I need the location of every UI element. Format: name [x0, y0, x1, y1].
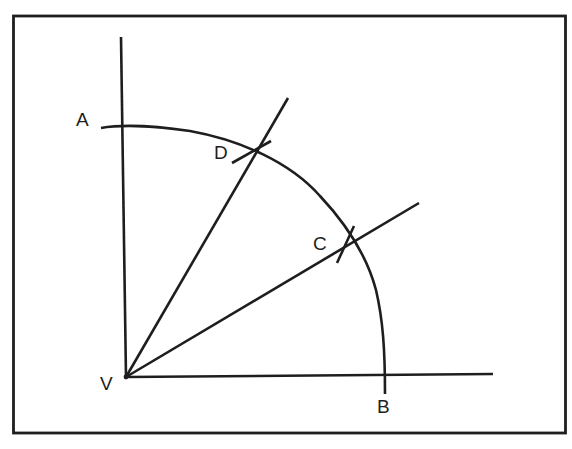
trisection-diagram: A D C V B: [0, 0, 572, 449]
vertical-ray: [121, 37, 126, 377]
horizontal-ray: [126, 374, 493, 377]
label-v: V: [100, 373, 113, 394]
label-d: D: [214, 142, 228, 163]
label-a: A: [76, 109, 89, 130]
ray-vd: [126, 98, 288, 377]
label-c: C: [313, 233, 327, 254]
label-b: B: [377, 396, 390, 417]
frame-border: [14, 16, 566, 433]
vertex-v-point: [124, 375, 129, 380]
arc-ab: [101, 126, 385, 394]
